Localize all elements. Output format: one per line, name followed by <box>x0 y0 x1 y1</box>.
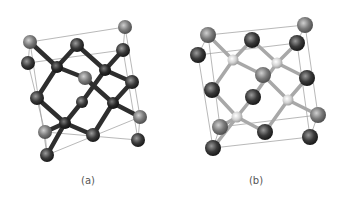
atom-dark <box>70 38 84 52</box>
panel-a-caption: (a) <box>81 175 95 186</box>
atom-dark <box>257 124 273 140</box>
atom-light <box>228 55 239 66</box>
atom-dark <box>204 82 220 98</box>
atom-dark <box>299 70 315 86</box>
atom-dark <box>116 43 130 57</box>
atom-dark <box>131 133 145 147</box>
atom-node <box>59 117 71 129</box>
atom-node <box>51 61 63 73</box>
atom-dark <box>244 32 260 48</box>
atom-gray <box>38 125 52 139</box>
atom-gray <box>297 17 313 33</box>
atom-dark <box>190 47 206 63</box>
atom-node <box>107 97 119 109</box>
atom-dark <box>302 129 318 145</box>
atom-light <box>232 112 243 123</box>
atom-dark <box>21 56 35 70</box>
atom-light <box>272 58 283 69</box>
atom-gray <box>212 119 228 135</box>
atom-dark <box>40 148 54 162</box>
atom-dark <box>245 89 261 105</box>
crystal-structure-figure <box>0 0 345 197</box>
atom-gray <box>118 20 132 34</box>
atom-dark <box>205 140 221 156</box>
atom-gray <box>255 67 271 83</box>
atom-dark <box>76 96 88 108</box>
panel-a-structure <box>21 20 147 162</box>
atom-dark <box>86 128 100 142</box>
atom-gray <box>23 35 37 49</box>
panel-b-caption: (b) <box>249 175 263 186</box>
panel-b-structure <box>190 17 326 156</box>
atom-gray <box>78 71 92 85</box>
atom-light <box>283 95 294 106</box>
atom-dark <box>30 91 44 105</box>
atom-gray <box>133 110 147 124</box>
atom-gray <box>200 27 216 43</box>
atom-dark <box>289 35 305 51</box>
atom-node <box>99 64 111 76</box>
atom-dark <box>125 75 139 89</box>
atom-gray <box>310 107 326 123</box>
